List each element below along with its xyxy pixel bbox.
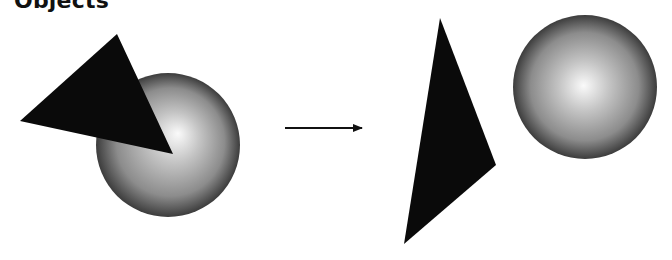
sphere-after (513, 15, 657, 159)
triangle-after (404, 18, 496, 244)
after-group (404, 15, 657, 244)
before-group (20, 34, 240, 217)
diagram-canvas (0, 0, 672, 260)
